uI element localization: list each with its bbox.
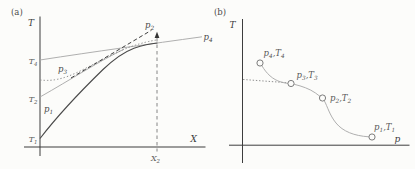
panel-b-y-axis-label: T [230,20,237,30]
data-point-p4t4 [257,60,263,66]
curve-label-p2: p2 [145,20,154,31]
curve-seg-p2-p1 [324,101,369,137]
panel-a: (a) T X T4 T2 T1 X2 p1 p2 p3 p4 [11,7,213,164]
data-point-p3t3 [288,80,294,86]
curve-label-p3: p3 [58,64,67,75]
point-label-p3t3: p3,T3 [297,70,319,81]
two-panel-plot: (a) T X T4 T2 T1 X2 p1 p2 p3 p4 [0,0,415,169]
tick-label-x2: X2 [150,154,161,164]
point-label-p4t4: p4,T4 [264,48,286,59]
point-label-p2t2: p2,T2 [330,93,352,104]
data-point-p1t1 [369,134,375,140]
point-label-p1t1: p1,T1 [374,122,395,133]
panel-a-tag: (a) [11,7,23,17]
data-point-p2t2 [319,95,325,101]
panel-a-y-axis-label: T [28,18,35,28]
curve-seg-p3-p2 [294,84,320,96]
panel-b: (b) T p p4,T4 p3,T3 p2,T2 p1,T1 [214,7,410,164]
curve-label-p1: p1 [44,104,53,115]
tick-label-t1: T1 [29,135,38,145]
tick-label-t4: T4 [29,57,38,67]
curve-p4 [40,37,202,60]
curve-seg-p4-p3 [262,66,288,84]
curve-label-p4: p4 [204,32,213,43]
tick-label-t2: T2 [29,95,38,105]
figure-canvas: (a) T X T4 T2 T1 X2 p1 p2 p3 p4 [0,0,415,169]
line-p2-dashed [71,30,152,78]
panel-a-x-axis-label: X [190,134,198,144]
panel-b-x-axis-label: p [395,134,401,144]
up-arrowhead-icon [155,32,160,38]
panel-b-tag: (b) [214,7,226,17]
